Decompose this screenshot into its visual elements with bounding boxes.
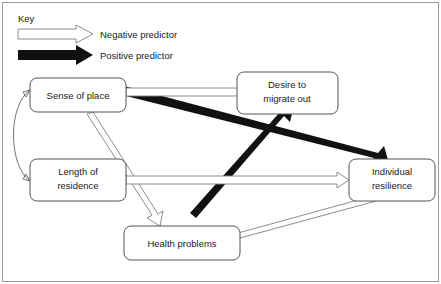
node-label-desire-to-migrate-out-line2: migrate out bbox=[263, 93, 311, 104]
node-label-desire-to-migrate-out-line1: Desire to bbox=[268, 79, 306, 90]
node-sense-of-place[interactable]: Sense of place bbox=[30, 78, 126, 112]
legend-item-negative: Negative predictor bbox=[18, 25, 177, 43]
legend-label-positive: Positive predictor bbox=[100, 50, 173, 61]
node-label-length-of-residence-line1: Length of bbox=[58, 166, 98, 177]
node-label-health-problems: Health problems bbox=[147, 238, 216, 249]
arrow-right-outline-icon bbox=[18, 25, 93, 43]
node-label-sense-of-place: Sense of place bbox=[47, 90, 110, 101]
arrow-right-solid-icon bbox=[18, 45, 93, 65]
node-health-problems[interactable]: Health problems bbox=[124, 226, 240, 260]
node-desire-to-migrate-out[interactable]: Desire to migrate out bbox=[237, 72, 338, 114]
legend-item-positive: Positive predictor bbox=[18, 45, 173, 65]
legend-label-negative: Negative predictor bbox=[100, 29, 177, 40]
node-individual-resilience[interactable]: Individual resilience bbox=[349, 159, 435, 201]
node-label-individual-resilience-line2: resilience bbox=[372, 180, 412, 191]
node-label-length-of-residence-line2: residence bbox=[57, 180, 98, 191]
node-label-individual-resilience-line1: Individual bbox=[372, 166, 412, 177]
correlation-curve bbox=[14, 90, 31, 181]
node-length-of-residence[interactable]: Length of residence bbox=[30, 159, 126, 201]
edge-residence-to-resilience bbox=[126, 172, 349, 188]
edge-sop-residence-correlation bbox=[14, 90, 31, 181]
diagram-canvas: Key Negative predictor Positive predicto… bbox=[0, 0, 441, 284]
legend: Key Negative predictor Positive predicto… bbox=[18, 13, 177, 65]
legend-title: Key bbox=[18, 13, 35, 24]
path-diagram-figure: Key Negative predictor Positive predicto… bbox=[0, 0, 441, 284]
